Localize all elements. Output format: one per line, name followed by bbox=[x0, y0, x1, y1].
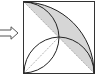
right-arrow-icon bbox=[0, 26, 19, 40]
geometry-figure bbox=[23, 1, 95, 74]
